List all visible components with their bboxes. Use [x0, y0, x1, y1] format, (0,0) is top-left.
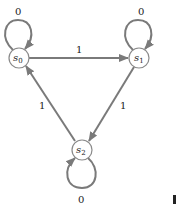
edge-s2-s0	[26, 66, 75, 141]
edge-s1-s1	[125, 20, 151, 50]
end-mark	[173, 195, 176, 204]
state-node-s0: s0	[9, 48, 29, 68]
state-node-s2: s2	[72, 140, 92, 160]
edge-s0-s0	[5, 20, 31, 50]
label-s1-loop: 0	[138, 6, 144, 17]
edge-s2-s2	[67, 158, 95, 188]
label-s2-s0: 1	[39, 100, 45, 111]
label-s0-loop: 0	[15, 6, 21, 17]
state-diagram: s0 s1 s2 0 0 0 1 1 1	[0, 0, 176, 206]
label-s0-s1: 1	[76, 44, 82, 55]
label-s2-loop: 0	[78, 194, 84, 205]
state-node-s1: s1	[129, 48, 149, 68]
label-s1-s2: 1	[120, 100, 126, 111]
edge-s1-s2	[89, 67, 134, 141]
